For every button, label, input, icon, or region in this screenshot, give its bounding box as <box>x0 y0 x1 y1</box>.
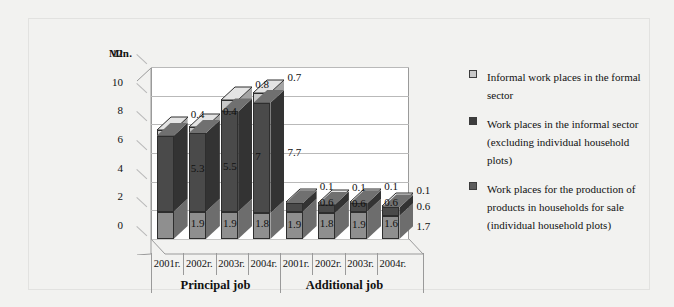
category-separator <box>216 253 217 275</box>
data-label-middle: 5.3 <box>191 162 205 174</box>
bar-segment <box>157 212 174 239</box>
group-separator <box>280 253 281 293</box>
y-tick-label: 4 <box>93 162 123 174</box>
bar-segment-side <box>270 90 284 213</box>
data-label-middle: 0.6 <box>352 197 366 209</box>
x-category-label: 2004г. <box>248 255 280 273</box>
data-label-bottom: 1.7 <box>416 220 430 232</box>
data-label-middle: 0.6 <box>320 196 334 208</box>
data-label-top: 0.1 <box>416 184 430 196</box>
data-label-middle: 5.5 <box>223 160 237 172</box>
figure-frame: Mln. 024681012 1.95.30.41.95.50.41.870.8… <box>28 18 650 290</box>
legend-item[interactable]: Work places in the informal sector (excl… <box>469 114 651 168</box>
bar-segment-side <box>174 123 188 212</box>
chart-left-wall <box>137 67 151 253</box>
data-label-top: 0.4 <box>191 108 205 120</box>
y-tick-label: 2 <box>93 190 123 202</box>
data-label-bottom: 1.8 <box>255 217 269 229</box>
data-label-top: 0.8 <box>255 78 269 90</box>
data-label-top: 0.7 <box>287 71 301 83</box>
y-tick-label: 0 <box>93 219 123 231</box>
axis-boundary <box>423 253 424 293</box>
legend-swatch-icon <box>469 182 477 190</box>
gridline <box>151 67 409 68</box>
category-separator <box>183 253 184 275</box>
group-label: Additional job <box>280 277 409 293</box>
legend-swatch-icon <box>469 70 477 78</box>
data-label-top: 0.4 <box>223 105 237 117</box>
category-separator <box>377 253 378 275</box>
bar-segment <box>157 136 174 212</box>
bar-segment-side <box>238 98 252 211</box>
x-category-label: 2004г. <box>377 255 409 273</box>
y-tick-label: 10 <box>93 76 123 88</box>
bar-segment-side <box>206 120 220 212</box>
data-label-bottom: 1.8 <box>320 217 334 229</box>
data-label-middle: 7 <box>255 150 261 162</box>
data-label-middle: 7.7 <box>287 146 301 158</box>
data-label-bottom: 1.9 <box>352 218 366 230</box>
data-label-top: 0.1 <box>320 180 334 192</box>
x-category-label: 2002г. <box>312 255 344 273</box>
data-label-middle: 0.6 <box>384 196 398 208</box>
data-label-middle: 0.6 <box>416 200 430 212</box>
legend-label: Informal work places in the formal secto… <box>487 71 641 101</box>
bar-segment <box>286 203 303 212</box>
x-category-label: 2002г. <box>183 255 215 273</box>
y-tick-label: 8 <box>93 104 123 116</box>
legend-swatch-icon <box>469 117 477 125</box>
bar-segment <box>382 207 399 216</box>
data-label-top: 0.1 <box>384 180 398 192</box>
x-category-label: 2001г. <box>280 255 312 273</box>
chart-floor-edges <box>151 239 423 255</box>
x-category-label: 2003г. <box>345 255 377 273</box>
legend-item[interactable]: Work places for the production of produc… <box>469 179 651 233</box>
data-label-bottom: 1.6 <box>384 217 398 229</box>
y-tick-label: 6 <box>93 133 123 145</box>
legend-item[interactable]: Informal work places in the formal secto… <box>469 67 651 103</box>
x-category-label: 2001г. <box>151 255 183 273</box>
x-category-label: 2003г. <box>216 255 248 273</box>
chart-legend: Informal work places in the formal secto… <box>469 67 651 244</box>
y-tick-label: 12 <box>93 47 123 59</box>
legend-label: Work places for the production of produc… <box>487 183 635 231</box>
group-label: Principal job <box>151 277 280 293</box>
data-label-bottom: 1.9 <box>191 217 205 229</box>
axis-boundary <box>151 253 152 293</box>
data-label-bottom: 1.9 <box>287 218 301 230</box>
legend-label: Work places in the informal sector (excl… <box>487 118 639 166</box>
data-label-top: 0.1 <box>352 181 366 193</box>
category-separator <box>312 253 313 275</box>
category-separator <box>248 253 249 275</box>
category-separator <box>345 253 346 275</box>
y-tick-mark <box>136 54 147 64</box>
chart-area: Mln. 024681012 1.95.30.41.95.50.41.870.8… <box>29 19 469 291</box>
data-label-bottom: 1.9 <box>223 217 237 229</box>
